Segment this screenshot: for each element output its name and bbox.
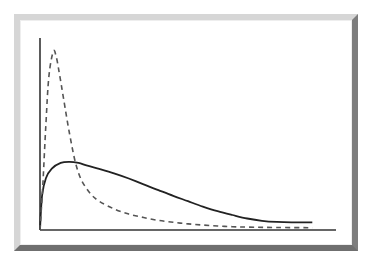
solid-curve bbox=[40, 162, 312, 230]
dashed-curve bbox=[40, 50, 312, 230]
line-chart bbox=[0, 0, 374, 265]
